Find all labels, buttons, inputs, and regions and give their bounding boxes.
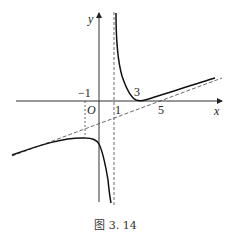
tick-label-5: 5 — [158, 103, 164, 117]
tick-label-1: 1 — [115, 103, 121, 117]
origin-label: O — [87, 103, 96, 117]
tick-label-neg1: −1 — [78, 86, 91, 100]
x-axis-label: x — [213, 104, 220, 118]
curve-right-branch — [116, 13, 215, 101]
curve-left-branch — [12, 138, 111, 203]
function-graph: y x O −1 1 3 5 — [0, 0, 231, 236]
y-axis-label: y — [87, 12, 94, 26]
figure-caption: 图 3. 14 — [0, 216, 231, 232]
tick-label-3: 3 — [134, 85, 140, 99]
